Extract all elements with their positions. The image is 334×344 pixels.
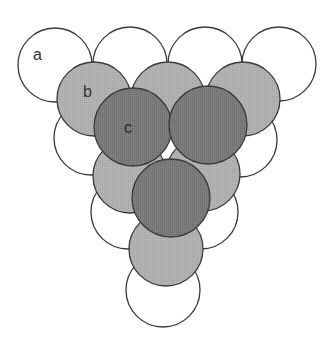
label-c: c [124, 119, 132, 136]
sphere-c-1 [169, 86, 247, 164]
sphere-stacking-diagram: a b c [0, 0, 334, 344]
sphere-c-2 [132, 159, 210, 237]
label-b: b [83, 83, 92, 100]
label-a: a [33, 46, 42, 63]
sphere-c-0 [94, 88, 172, 166]
